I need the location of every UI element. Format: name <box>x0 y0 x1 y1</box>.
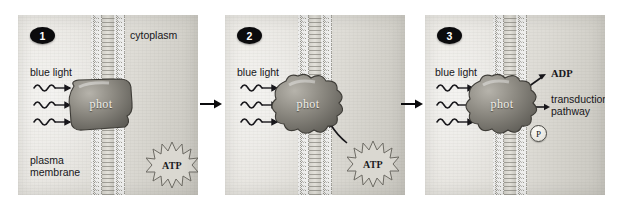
panel-3: phot P 3 blue light ADP transduction pat… <box>425 15 605 195</box>
phot-protein-inactive: phot <box>65 77 137 133</box>
panel-number-badge-2: 2 <box>237 27 262 44</box>
step-arrow-2-to-3 <box>399 94 425 114</box>
phosphate-group-icon: P <box>530 125 547 142</box>
blue-light-label-panel-3: blue light <box>435 67 477 79</box>
step-arrow-1-to-2 <box>198 94 224 114</box>
phototropin-activation-figure: phot ATP 1 cytoplasm blue light plasma m… <box>0 0 618 208</box>
transduction-pathway-label: transduction pathway <box>551 94 605 118</box>
panel-number-badge-3: 3 <box>437 27 462 44</box>
panel-2: phot ATP 2 blue light <box>225 15 405 195</box>
cytoplasm-label: cytoplasm <box>130 30 177 42</box>
atp-label-panel-2: ATP <box>347 159 399 170</box>
panel-number-badge-1: 1 <box>30 27 55 44</box>
atp-burst-panel-1: ATP <box>146 141 198 189</box>
atp-burst-panel-2: ATP <box>347 140 399 188</box>
phot-protein-activated: phot <box>269 73 347 137</box>
phot-protein-phosphorylated: phot <box>463 73 541 137</box>
blue-light-label-panel-2: blue light <box>237 67 279 79</box>
adp-label: ADP <box>551 68 573 79</box>
blue-light-label-panel-1: blue light <box>30 67 72 79</box>
plasma-membrane-label: plasma membrane <box>30 155 80 179</box>
panel-1: phot ATP 1 cytoplasm blue light plasma m… <box>18 15 198 195</box>
atp-label-panel-1: ATP <box>146 160 198 171</box>
